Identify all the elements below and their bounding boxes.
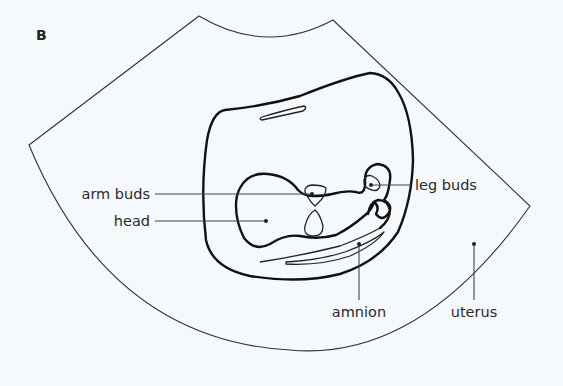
panel-label: B bbox=[36, 27, 47, 43]
leg-bud bbox=[364, 176, 380, 191]
amnion-marker bbox=[357, 242, 361, 246]
head-label: head bbox=[114, 213, 150, 229]
uterus-label: uterus bbox=[451, 304, 498, 320]
arm-bud-lower bbox=[305, 210, 323, 236]
leg-buds-marker bbox=[369, 183, 373, 187]
gestational-sac-outline bbox=[203, 73, 413, 280]
head-marker bbox=[264, 219, 268, 223]
leg-buds-label: leg buds bbox=[415, 177, 477, 193]
arm-buds-label: arm buds bbox=[82, 186, 150, 202]
echo-streak bbox=[260, 106, 306, 120]
arm-buds-marker bbox=[310, 192, 314, 196]
amnion-label: amnion bbox=[332, 304, 386, 320]
diagram-canvas: B arm buds head leg bbox=[0, 0, 563, 386]
uterus-marker bbox=[472, 242, 476, 246]
ultrasound-diagram: B arm buds head leg bbox=[0, 0, 563, 386]
